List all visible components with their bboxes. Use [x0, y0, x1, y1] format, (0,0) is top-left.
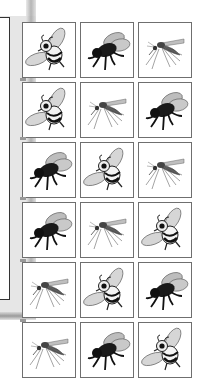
fly-icon [24, 205, 74, 255]
tile-fly[interactable] [80, 322, 134, 378]
tile-fly[interactable] [22, 202, 76, 258]
tile-fly[interactable] [22, 142, 76, 198]
mosquito-icon [140, 25, 190, 75]
bee-icon [82, 265, 132, 315]
row-separator [20, 259, 26, 262]
mosquito-icon [140, 145, 190, 195]
tile-bee[interactable] [80, 142, 134, 198]
tile-bee[interactable] [80, 262, 134, 318]
tile-fly[interactable] [80, 22, 134, 78]
tile-bee[interactable] [138, 322, 192, 378]
fly-icon [140, 85, 190, 135]
insect-grid [22, 22, 192, 378]
bee-icon [82, 145, 132, 195]
tile-bee[interactable] [22, 82, 76, 138]
row-separator [20, 319, 26, 322]
row-separator [20, 78, 26, 81]
side-panel [0, 17, 10, 300]
tile-fly[interactable] [138, 262, 192, 318]
mosquito-icon [82, 85, 132, 135]
fly-icon [82, 25, 132, 75]
tile-bee[interactable] [138, 202, 192, 258]
fly-icon [24, 145, 74, 195]
mosquito-icon [82, 205, 132, 255]
bee-icon [140, 205, 190, 255]
fly-icon [140, 265, 190, 315]
fly-icon [82, 325, 132, 375]
tile-mosquito[interactable] [22, 322, 76, 378]
tile-mosquito[interactable] [138, 22, 192, 78]
bee-icon [24, 25, 74, 75]
tile-bee[interactable] [22, 22, 76, 78]
tile-mosquito[interactable] [22, 262, 76, 318]
bee-icon [24, 85, 74, 135]
tile-mosquito[interactable] [80, 82, 134, 138]
mosquito-icon [24, 265, 74, 315]
mosquito-icon [24, 325, 74, 375]
tile-mosquito[interactable] [80, 202, 134, 258]
row-separator [20, 137, 26, 140]
row-separator [20, 197, 26, 200]
tile-mosquito[interactable] [138, 142, 192, 198]
tile-fly[interactable] [138, 82, 192, 138]
bee-icon [140, 325, 190, 375]
